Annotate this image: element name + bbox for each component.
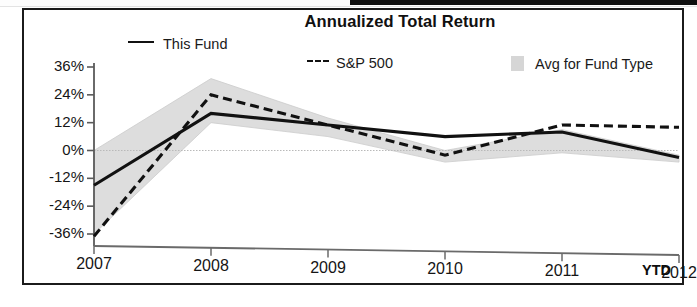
legend-label-this-fund: This Fund [163,36,227,52]
legend-item-this-fund: This Fund [128,35,227,52]
legend-label-sp500: S&P 500 [336,55,393,71]
y-axis-tick-label: 24% [26,85,84,102]
x-axis-tick-label: 2007 [59,255,129,273]
dashed-line-swatch-icon [307,60,329,62]
scan-dark-margin [350,0,697,5]
chart-title: Annualized Total Return [250,12,550,31]
solid-line-swatch-icon [128,41,154,43]
plot-area: 36%24%12%0%-12%-24%-36% 2007200820092010… [24,10,686,287]
chart-container: 36%24%12%0%-12%-24%-36% 2007200820092010… [22,8,684,285]
y-axis-tick-marks [87,67,94,234]
legend-item-avg-fund-type: Avg for Fund Type [511,55,653,72]
chart-plot-svg [24,10,686,287]
x-axis-tick-label: 2011 [527,262,597,280]
x-axis-line [94,246,679,255]
x-axis-tick-label: 2008 [176,257,246,275]
y-axis-tick-label: -12% [26,168,84,185]
legend-item-sp500: S&P 500 [307,54,393,71]
y-axis-tick-label: 12% [26,113,84,130]
shaded-band-swatch-icon [511,56,524,71]
x-axis-ytd-label: YTD [642,262,671,278]
x-axis-tick-label: 2009 [293,259,363,277]
avg-fund-type-band [94,79,679,234]
y-axis-tick-label: 0% [26,141,84,158]
y-axis-tick-label: -36% [26,224,84,241]
y-axis-tick-label: -24% [26,196,84,213]
legend-label-avg-fund-type: Avg for Fund Type [535,56,653,72]
x-axis-tick-label: 2010 [410,260,480,278]
y-axis-tick-label: 36% [26,57,84,74]
